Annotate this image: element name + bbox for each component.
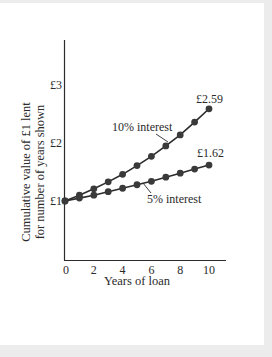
data-point-marker (206, 105, 213, 112)
x-tick-label: 0 (63, 263, 69, 277)
data-point-marker (105, 178, 112, 185)
data-point-marker (134, 181, 141, 188)
data-point-marker (119, 185, 126, 192)
y-tick-label: £2 (50, 136, 62, 150)
data-point-marker (177, 131, 184, 138)
chart: 0246810£1£2£3 Years of loan Cumulative v… (0, 0, 272, 357)
data-point-marker (191, 119, 198, 126)
data-point-marker (62, 198, 69, 205)
data-point-marker (134, 162, 141, 169)
series-label-5pct: 5% interest (147, 192, 202, 206)
series-label-10pct: 10% interest (112, 120, 173, 134)
y-axis-label-line2: for number of years shown (33, 104, 47, 239)
y-tick-label: £1 (50, 194, 62, 208)
data-point-marker (76, 195, 83, 202)
data-point-marker (119, 171, 126, 178)
x-tick-label: 8 (177, 263, 183, 277)
data-point-marker (206, 162, 213, 169)
end-label-10pct: £2.59 (196, 92, 223, 106)
data-point-marker (148, 153, 155, 160)
data-point-marker (90, 185, 97, 192)
x-tick-label: 10 (203, 263, 215, 277)
data-point-marker (105, 188, 112, 195)
y-axis-label-line1: Cumulative value of £1 lent (19, 102, 33, 242)
data-point-marker (162, 143, 169, 150)
data-point-marker (148, 178, 155, 185)
leader-line-10pct (156, 134, 168, 142)
data-point-marker (191, 166, 198, 173)
data-point-marker (162, 174, 169, 181)
end-label-5pct: £1.62 (197, 146, 224, 160)
data-point-marker (90, 192, 97, 199)
x-axis-label: Years of loan (104, 274, 171, 288)
data-point-marker (177, 170, 184, 177)
x-tick-label: 2 (91, 263, 97, 277)
y-tick-label: £3 (50, 78, 62, 92)
